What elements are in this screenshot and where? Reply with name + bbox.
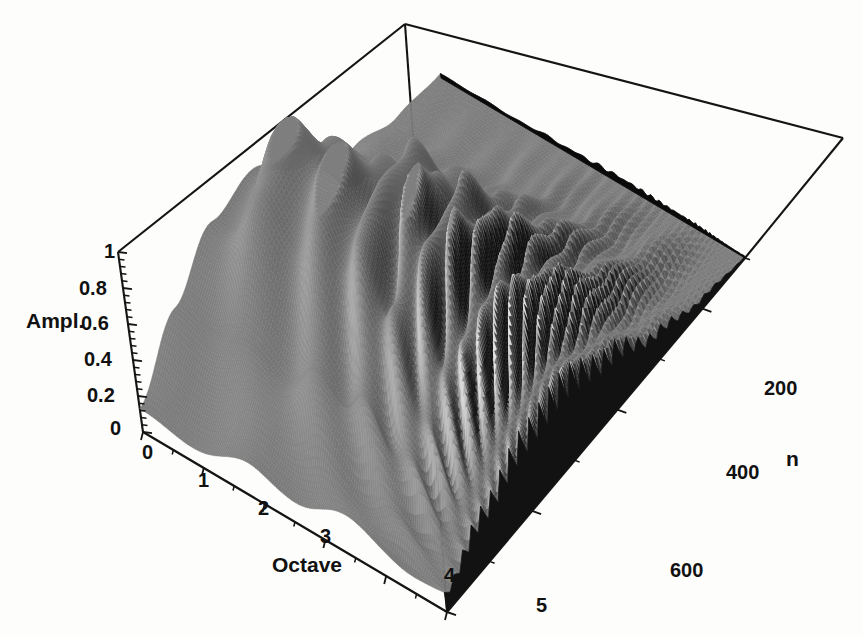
n-tick-2: 600	[670, 559, 703, 582]
octave-tick-3: 3	[320, 525, 331, 548]
surface-mesh	[140, 74, 745, 613]
amplitude-tick-1: 0.8	[79, 277, 107, 300]
octave-tick-2: 2	[258, 497, 269, 520]
octave-tick-5: 5	[536, 594, 547, 617]
figure-canvas: Ampl. Octave n 10.80.60.40.20 012345 200…	[0, 0, 863, 637]
octave-tick-0: 0	[142, 441, 153, 464]
n-tick-1: 400	[726, 461, 759, 484]
amplitude-tick-0: 1	[104, 240, 115, 263]
amplitude-axis-label: Ampl.	[26, 309, 84, 333]
amplitude-tick-5: 0	[110, 417, 121, 440]
n-tick-0: 200	[764, 377, 797, 400]
amplitude-tick-4: 0.2	[87, 384, 115, 407]
surface-plot-svg	[0, 0, 863, 637]
octave-tick-1: 1	[198, 469, 209, 492]
amplitude-tick-3: 0.4	[84, 348, 112, 371]
octave-axis-label: Octave	[272, 553, 342, 577]
n-axis-label: n	[786, 447, 799, 471]
octave-tick-4: 4	[444, 564, 455, 587]
amplitude-tick-2: 0.6	[81, 312, 109, 335]
